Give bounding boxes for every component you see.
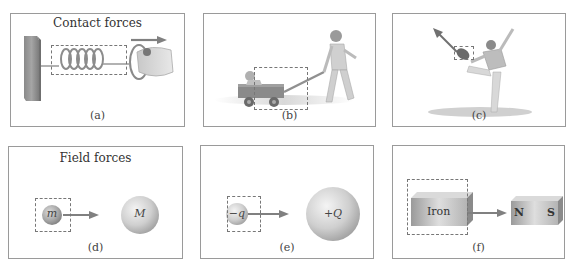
panel-b-wagon: (b) [203,13,376,127]
panel-c-kicker: (c) [392,13,566,127]
caption-a: (a) [11,109,184,122]
wagon-system-boundary [254,67,308,110]
caption-c: (c) [393,109,565,122]
caption-f: (f) [393,241,564,254]
panel-d-gravity: Field forces m M (d) [8,146,183,259]
mass-m-label: m [42,207,62,220]
charge-negative-q-label: −q [225,207,249,220]
iron-label: Iron [427,205,450,218]
mass-M-label: M [130,207,150,220]
panel-e-electric: −q +Q (e) [200,145,374,259]
magnet-north-label: N [514,206,524,219]
caption-b: (b) [204,109,375,122]
panel-f-magnetic: Iron N S (f) [392,145,565,259]
spring-system-boundary [51,45,127,75]
panel-a-spring: Contact forces (a) [10,13,185,127]
magnet-south-label: S [547,206,555,219]
caption-e: (e) [201,241,373,254]
ball-system-boundary [454,46,474,60]
caption-d: (d) [9,241,182,254]
charge-positive-Q-label: +Q [321,207,345,220]
